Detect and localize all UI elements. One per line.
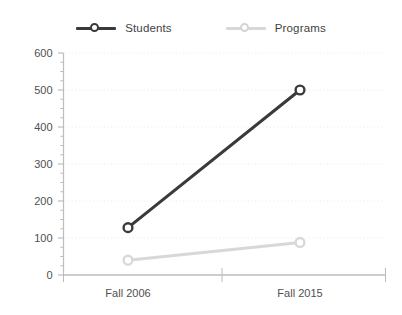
y-tick-label: 600 bbox=[34, 47, 52, 59]
line-chart: Students Programs 0100200300400500600 Fa… bbox=[0, 0, 402, 315]
x-axis bbox=[64, 268, 386, 282]
plot-area: 0100200300400500600 Fall 2006Fall 2015 bbox=[0, 0, 402, 315]
data-point-students[interactable] bbox=[296, 86, 305, 95]
chart-canvas: 0100200300400500600 Fall 2006Fall 2015 bbox=[0, 0, 402, 315]
y-tick-label: 300 bbox=[34, 158, 52, 170]
data-point-programs[interactable] bbox=[124, 256, 133, 265]
y-tick-label: 100 bbox=[34, 232, 52, 244]
y-tick-label: 0 bbox=[46, 269, 52, 281]
series-line-programs bbox=[128, 242, 300, 260]
y-axis bbox=[58, 53, 64, 275]
data-point-programs[interactable] bbox=[296, 238, 305, 247]
data-point-students[interactable] bbox=[124, 223, 133, 232]
x-tick-label: Fall 2006 bbox=[105, 287, 150, 299]
x-tick-labels: Fall 2006Fall 2015 bbox=[105, 287, 322, 299]
gridlines bbox=[65, 53, 386, 238]
y-tick-labels: 0100200300400500600 bbox=[34, 47, 52, 281]
series-line-students bbox=[128, 90, 300, 228]
y-tick-label: 200 bbox=[34, 195, 52, 207]
y-tick-label: 400 bbox=[34, 121, 52, 133]
series-lines bbox=[128, 90, 300, 260]
y-tick-label: 500 bbox=[34, 84, 52, 96]
x-tick-label: Fall 2015 bbox=[277, 287, 322, 299]
